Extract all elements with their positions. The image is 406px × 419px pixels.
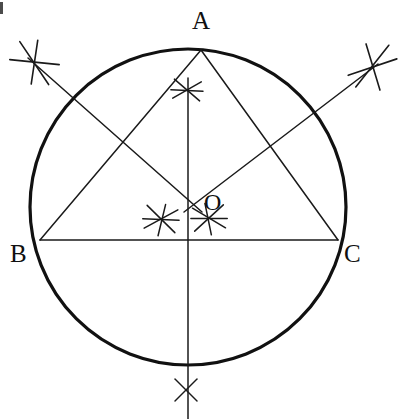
vertex-label-c: C [344,241,361,266]
geometry-figure: A B C O [0,0,406,419]
center-label-o: O [204,190,221,214]
triangle-ABC [40,50,338,240]
geometry-canvas [0,0,406,419]
vertex-label-a: A [192,8,210,33]
triangle-side-AB [40,50,201,240]
arc-cross-upper-right [343,38,403,96]
triangle-side-AC [201,50,338,240]
arc-cross-bottom [175,379,197,401]
vertex-label-b: B [10,241,27,266]
arc-cross-center-left [140,201,181,239]
